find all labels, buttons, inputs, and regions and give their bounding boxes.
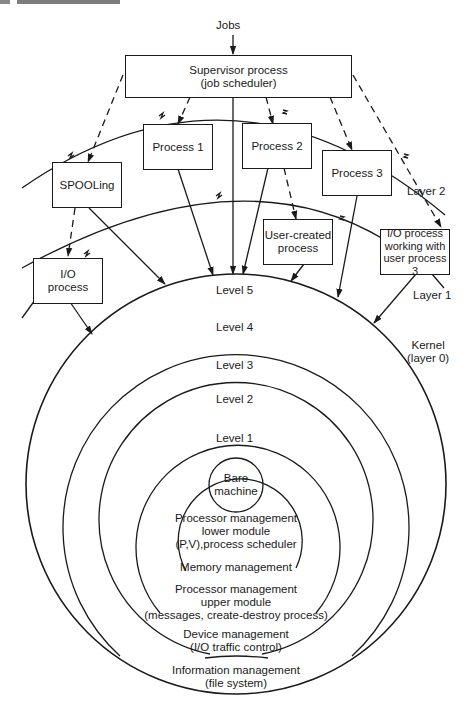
level-3-module-line-3: (messages, create-destroy process)	[140, 609, 332, 622]
level-4-module: Device management (I/O traffic control)	[166, 628, 306, 654]
supervisor-subtitle: (job scheduler)	[200, 77, 276, 90]
process-2-box: Process 2	[242, 123, 312, 169]
spooling-box: SPOOLing	[52, 162, 122, 208]
process-3-label: Process 3	[331, 167, 382, 180]
bare-machine-label: Bare machine	[206, 472, 266, 498]
process-1-label: Process 1	[152, 141, 203, 154]
user-created-process-box: User-created process	[263, 219, 333, 265]
io-user3-label-2: working with	[385, 240, 446, 253]
level-5-module-line-1: Information management	[156, 664, 316, 677]
level-3-label: Level 3	[216, 359, 253, 372]
supervisor-title: Supervisor process	[189, 64, 287, 77]
kernel-subtitle: (layer 0)	[407, 352, 449, 365]
level-1-module-line-1: Processor management	[166, 512, 306, 525]
level-5-module-line-2: (file system)	[156, 677, 316, 690]
io-user-process-3-box: I/O process working with user process 3	[380, 229, 450, 275]
level-3-module-line-2: upper module	[140, 596, 332, 609]
level-5-label: Level 5	[216, 284, 253, 297]
io-process-box: I/O process	[33, 258, 103, 304]
process-3-box: Process 3	[322, 150, 392, 196]
user-created-label-2: process	[278, 242, 318, 255]
bare-machine-line-2: machine	[206, 485, 266, 498]
level-4-label: Level 4	[216, 321, 253, 334]
user-created-label-1: User-created	[265, 229, 331, 242]
level-1-module-line-3: (P,V),process scheduler	[166, 538, 306, 551]
jobs-label: Jobs	[216, 19, 240, 32]
layer-1-label: Layer 1	[413, 289, 451, 302]
bare-machine-line-1: Bare	[206, 472, 266, 485]
level-4-module-line-2: (I/O traffic control)	[166, 641, 306, 654]
io-user3-label-1: I/O process	[387, 227, 443, 240]
process-2-label: Process 2	[251, 140, 302, 153]
level-2-module: Memory management	[166, 561, 306, 574]
level-3-module: Processor management upper module (messa…	[140, 583, 332, 622]
kernel-label: Kernel (layer 0)	[407, 339, 449, 365]
io-process-label-2: process	[48, 281, 88, 294]
io-process-label-1: I/O	[60, 268, 75, 281]
process-1-box: Process 1	[143, 124, 213, 170]
level-4-module-line-1: Device management	[166, 628, 306, 641]
level-5-module: Information management (file system)	[156, 664, 316, 690]
level-1-module: Processor management lower module (P,V),…	[166, 512, 306, 551]
level-1-label: Level 1	[216, 432, 253, 445]
layer-2-label: Layer 2	[407, 185, 445, 198]
supervisor-process-box: Supervisor process (job scheduler)	[125, 55, 352, 98]
spooling-label: SPOOLing	[60, 179, 115, 192]
level-2-label: Level 2	[216, 393, 253, 406]
level-3-module-line-1: Processor management	[140, 583, 332, 596]
level-1-module-line-2: lower module	[166, 525, 306, 538]
io-user3-label-3: user process 3	[381, 252, 449, 277]
kernel-title: Kernel	[407, 339, 449, 352]
